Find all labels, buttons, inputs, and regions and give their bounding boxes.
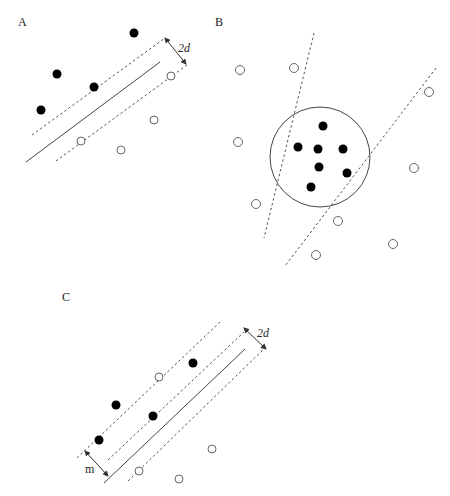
open-point xyxy=(117,146,125,154)
margin-label-2d: 2d xyxy=(257,326,270,340)
margin-line-upper xyxy=(108,332,244,460)
filled-point xyxy=(130,29,139,38)
filled-point xyxy=(112,401,121,410)
filled-point xyxy=(53,70,62,79)
open-point xyxy=(236,66,245,75)
filled-point xyxy=(90,83,99,92)
filled-point xyxy=(315,163,324,172)
separating-hyperplane xyxy=(104,349,245,483)
dashed-boundary-left xyxy=(264,33,314,238)
open-point xyxy=(425,88,434,97)
panel-c-label: C xyxy=(62,290,70,304)
filled-point xyxy=(307,183,316,192)
panel-b: B xyxy=(215,15,436,266)
filled-point xyxy=(95,436,104,445)
open-point xyxy=(167,72,175,80)
open-point xyxy=(175,475,183,483)
margin-line-lower xyxy=(128,345,268,481)
panel-c: C 2d m xyxy=(62,290,270,483)
margin-line-upper xyxy=(32,38,165,135)
filled-point xyxy=(339,145,348,154)
open-point xyxy=(312,251,321,260)
filled-point xyxy=(37,106,46,115)
open-point xyxy=(290,64,299,73)
open-point xyxy=(334,217,343,226)
separating-hyperplane xyxy=(26,62,160,162)
open-point xyxy=(389,240,398,249)
panel-b-label: B xyxy=(215,15,223,29)
open-point xyxy=(208,445,216,453)
open-point xyxy=(77,137,85,145)
enclosing-circle xyxy=(270,107,370,207)
diagram-canvas: A 2d B C xyxy=(0,0,450,496)
open-point xyxy=(155,373,163,381)
open-point xyxy=(410,164,419,173)
panel-a-label: A xyxy=(18,15,27,29)
open-point xyxy=(150,116,158,124)
filled-point xyxy=(294,143,303,152)
filled-point xyxy=(343,169,352,178)
open-point xyxy=(135,467,143,475)
panel-a: A 2d xyxy=(18,15,191,162)
open-point xyxy=(234,138,243,147)
filled-point xyxy=(314,145,323,154)
margin-label-2d: 2d xyxy=(178,41,191,55)
open-point xyxy=(252,200,261,209)
filled-point xyxy=(319,122,328,131)
filled-point xyxy=(189,359,198,368)
filled-point xyxy=(149,412,158,421)
width-label-m: m xyxy=(85,462,95,476)
